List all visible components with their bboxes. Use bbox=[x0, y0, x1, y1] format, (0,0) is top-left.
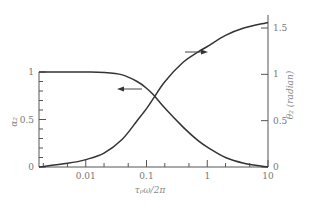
left-y-axis-label: α₂ bbox=[9, 117, 19, 127]
svg-text:0: 0 bbox=[273, 162, 279, 172]
svg-text:1: 1 bbox=[204, 171, 210, 181]
chart: 0.010.111000.5100.511.5 τₚω/2π α₂ θ₂ (ra… bbox=[0, 0, 314, 204]
right-y-axis-label: θ₂ (radian) bbox=[285, 70, 295, 119]
svg-text:1.5: 1.5 bbox=[273, 23, 288, 33]
arrow-left-icon bbox=[117, 87, 142, 92]
svg-text:0.5: 0.5 bbox=[20, 115, 35, 125]
svg-text:0.1: 0.1 bbox=[139, 171, 153, 181]
svg-text:1: 1 bbox=[28, 67, 34, 77]
svg-text:0.01: 0.01 bbox=[76, 171, 96, 181]
tick-labels: 0.010.111000.5100.511.5 bbox=[20, 23, 288, 181]
svg-text:1: 1 bbox=[273, 69, 279, 79]
svg-text:0: 0 bbox=[28, 162, 34, 172]
alpha2-curve bbox=[39, 72, 268, 167]
svg-text:10: 10 bbox=[262, 171, 274, 181]
x-axis-label: τₚω/2π bbox=[135, 185, 167, 195]
